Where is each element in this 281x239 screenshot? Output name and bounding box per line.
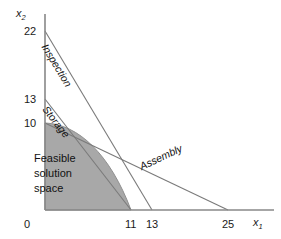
y-tick-label-22: 22 xyxy=(24,26,36,37)
feasible-region-chart: x2 x1 22 13 10 0 11 13 25 Inspection Sto… xyxy=(0,0,281,239)
feasible-region-label-line-2: solution xyxy=(34,167,72,181)
plot-canvas xyxy=(0,0,281,239)
y-tick-label-10: 10 xyxy=(24,118,36,129)
y-axis-title-subscript: 2 xyxy=(22,13,26,22)
feasible-region-label-line-3: space xyxy=(34,182,63,196)
x-tick-label-13: 13 xyxy=(146,219,158,230)
x-axis-title: x1 xyxy=(253,217,263,232)
y-axis-title: x2 xyxy=(16,8,26,23)
x-axis-title-subscript: 1 xyxy=(259,222,263,231)
feasible-region-label-line-1: Feasible xyxy=(34,152,76,166)
x-tick-label-25: 25 xyxy=(222,219,234,230)
x-tick-label-11: 11 xyxy=(125,219,136,230)
origin-label-0: 0 xyxy=(24,219,30,230)
y-tick-label-13: 13 xyxy=(24,94,36,105)
